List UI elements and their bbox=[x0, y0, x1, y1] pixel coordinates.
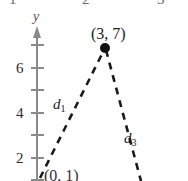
graph-figure: 1 2 3 y 6 4 2 (3, 7) (0, 1) d1 d3 bbox=[0, 0, 188, 181]
x-tick-label-3: 3 bbox=[157, 0, 165, 7]
segment-label-d1-sub: 1 bbox=[61, 103, 66, 114]
point-label-0-1: (0, 1) bbox=[44, 168, 79, 181]
segment-label-d3: d3 bbox=[124, 131, 137, 146]
segment-label-d3-sub: 3 bbox=[132, 137, 137, 148]
point-label-3-7: (3, 7) bbox=[91, 26, 126, 42]
data-point-marker bbox=[100, 43, 110, 53]
segment-label-d1-base: d bbox=[53, 96, 61, 112]
segment-d3-dashed-line bbox=[106, 50, 141, 181]
segment-label-d3-base: d bbox=[124, 130, 132, 146]
y-axis-arrow-icon bbox=[33, 26, 41, 38]
y-tick-label-4: 4 bbox=[16, 106, 24, 121]
x-tick-label-1: 1 bbox=[9, 0, 17, 7]
y-tick-label-6: 6 bbox=[16, 61, 24, 76]
y-tick-label-2: 2 bbox=[16, 151, 24, 166]
segment-d1-dashed-line bbox=[40, 48, 105, 178]
x-tick-label-2: 2 bbox=[82, 0, 90, 7]
segment-label-d1: d1 bbox=[53, 97, 66, 112]
y-axis-label: y bbox=[33, 10, 39, 24]
